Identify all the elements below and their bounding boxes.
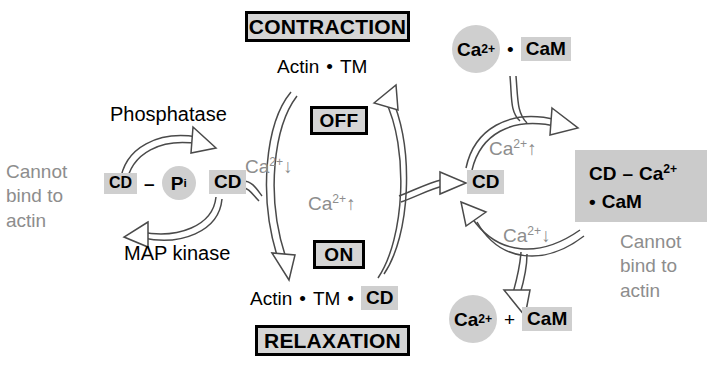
ca-circle-input: Ca2+ [452,25,500,73]
tm-label-bottom: TM [313,289,340,308]
arrow-center-left-down [267,92,297,280]
right-ca-down-arrow: ↓ [541,225,551,246]
right-ca-down-sup: 2+ [527,224,541,238]
pi-circle: Pi [162,166,196,200]
off-label: OFF [319,110,358,132]
center-ca-up-arrow: ↑ [346,193,356,214]
arrow-center-to-hub [399,172,466,202]
state-box-off: OFF [310,106,368,135]
left-annot-line-3: actin [6,209,96,233]
cam-chip-output: CaM [522,307,572,331]
label-phosphatase: Phosphatase [110,104,227,124]
label-right-ca-down: Ca2+↓ [503,224,551,248]
complex-cd: CD [589,160,616,188]
bullet-bottom-2: • [347,289,354,308]
label-center-ca-down: Ca2+↓ [245,155,293,179]
center-ca-down-text: Ca [245,156,269,177]
node-cd-hub: CD [467,170,504,194]
tm-label-top: TM [340,57,367,76]
right-ca-down-text: Ca [503,225,527,246]
label-center-ca-up: Ca2+↑ [308,192,356,216]
node-actin-tm-cd: Actin • TM • CD [250,286,398,310]
label-right-ca-up: Ca2+↑ [489,137,537,161]
complex-dash: – [622,160,633,188]
plus-sign-output: + [504,310,515,329]
state-box-relaxation: RELAXATION [255,325,410,356]
complex-line-2: • CaM [589,188,695,216]
right-annot-line-1: Cannot [620,230,710,254]
node-cd-ca-cam-complex: CD – Ca2+ • CaM [575,150,707,222]
ca-label-output: Ca [454,310,478,329]
cd-chip-phospho: CD [104,173,137,194]
state-box-on: ON [313,240,365,269]
right-annot-line-2: bind to [620,254,710,278]
node-cd-pi: CD – Pi [104,166,196,200]
bullet-top-1: • [326,57,333,76]
cam-chip-input: CaM [521,37,571,61]
on-label: ON [324,244,353,266]
arrow-center-right-up [374,85,407,278]
ca-label-input: Ca [457,40,481,59]
center-ca-down-arrow: ↓ [283,156,293,177]
pi-label: P [171,174,184,193]
center-ca-down-sup: 2+ [269,155,283,169]
cd-chip-bottom: CD [361,286,398,310]
right-ca-up-arrow: ↑ [527,138,537,159]
center-ca-up-text: Ca [308,193,332,214]
left-cannot-bind-annotation: Cannot bind to actin [6,160,96,233]
actin-label-bottom: Actin [250,289,292,308]
right-ca-up-text: Ca [489,138,513,159]
node-ca-plus-cam-output: Ca2+ + CaM [449,295,572,343]
node-actin-tm: Actin • TM [277,57,367,76]
complex-ca-text: Ca [639,163,663,184]
right-cannot-bind-annotation: Cannot bind to actin [620,230,710,303]
right-annot-line-3: actin [620,279,710,303]
arrow-map-kinase [124,197,222,247]
state-box-contraction: CONTRACTION [245,11,410,42]
left-annot-line-2: bind to [6,184,96,208]
relaxation-label: RELAXATION [264,329,401,353]
right-ca-up-sup: 2+ [513,137,527,151]
ca-circle-output: Ca2+ [449,295,497,343]
dash-phospho: – [144,174,155,193]
left-annot-line-1: Cannot [6,160,96,184]
center-ca-up-sup: 2+ [332,192,346,206]
complex-cam: CaM [602,188,642,216]
complex-ca-sup: 2+ [663,162,677,176]
cd-chip-left: CD [209,170,246,194]
node-ca-cam-input: Ca2+ • CaM [452,25,571,73]
complex-bullet: • [589,192,596,211]
cd-chip-hub: CD [467,170,504,194]
label-map-kinase: MAP kinase [124,243,230,263]
bullet-input: • [507,40,514,59]
contraction-label: CONTRACTION [249,15,406,39]
complex-ca: Ca2+ [639,160,677,188]
pathway-diagram: .aline { fill: none; stroke: #4a4a4a; st… [0,0,711,375]
node-cd-left: CD [209,170,246,194]
complex-line-1: CD – Ca2+ [589,160,695,188]
arrow-cacam-input [510,76,527,123]
bullet-bottom-1: • [299,289,306,308]
actin-label-top: Actin [277,57,319,76]
